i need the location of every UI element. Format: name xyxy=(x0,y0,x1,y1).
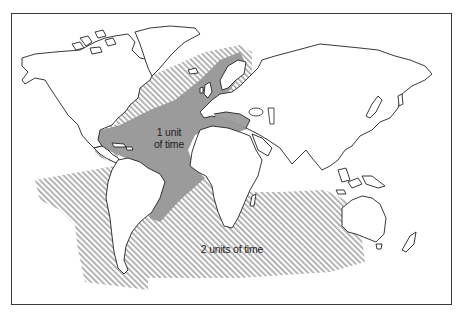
zone-2-label: 2 units of time xyxy=(182,243,282,255)
zone-1-label: 1 unit of time xyxy=(140,126,198,150)
world-map xyxy=(0,0,465,319)
zone-1-label-line2: of time xyxy=(140,138,198,150)
zone-1-label-line1: 1 unit xyxy=(140,126,198,138)
new-zealand xyxy=(402,232,416,252)
